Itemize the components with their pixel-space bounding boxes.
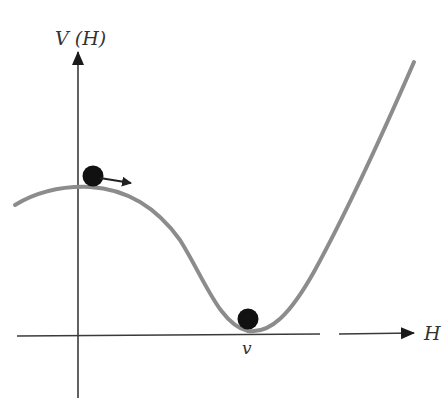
x-axis-label: H [423, 322, 441, 344]
x-axis-right [339, 333, 414, 334]
ball-top [83, 166, 104, 187]
potential-diagram: V (H) H v [0, 0, 447, 402]
y-axis-label: V (H) [55, 27, 106, 49]
potential-curve [15, 62, 414, 331]
x-axis-left [17, 334, 320, 336]
ball-bottom [238, 309, 259, 330]
minimum-label: v [242, 338, 252, 358]
roll-direction-arrow-icon [100, 178, 131, 183]
